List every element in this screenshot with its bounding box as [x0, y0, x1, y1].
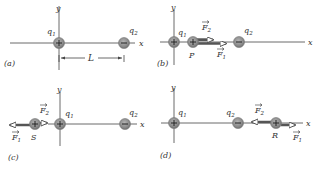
charge-label-q2: q2: [129, 108, 138, 118]
charge-label-q1: q1: [178, 28, 187, 38]
charge-label-p: P: [188, 51, 195, 60]
charge-label-q2: q2: [244, 26, 253, 36]
panel-label-b: (b): [157, 59, 168, 68]
y-axis-label: y: [55, 4, 61, 13]
force-vector-f2: [197, 39, 213, 42]
panel-b: y x F2 F1 q1 P q2 (b): [157, 3, 313, 68]
charge-q2-negative: [233, 118, 244, 129]
panel-label-a: (a): [4, 59, 15, 68]
x-axis-label: x: [308, 38, 313, 47]
charge-label-q2: q2: [226, 108, 235, 118]
panel-a: y x q1 q2 L (a): [4, 4, 144, 70]
y-axis-label: y: [170, 83, 176, 92]
charge-q1-positive: [54, 38, 65, 49]
charge-q2-negative: [234, 37, 245, 48]
charge-q1-positive: [169, 118, 180, 129]
charge-p-positive: [188, 37, 199, 48]
x-axis-label: x: [139, 39, 144, 48]
charge-q2-negative: [119, 38, 130, 49]
charge-label-r: R: [271, 131, 278, 140]
x-axis-label: x: [140, 120, 145, 129]
dimension-label-L: L: [87, 53, 94, 63]
force-label-f2: F2: [254, 106, 265, 116]
y-axis-label: y: [170, 3, 176, 12]
panel-d: y x F2 F1 q1 q2 R (d): [160, 83, 311, 160]
charge-label-q1: q1: [47, 27, 56, 37]
charge-label-q1: q1: [178, 108, 187, 118]
force-label-f1: F1: [292, 133, 302, 143]
panel-c: y x F2 F1 S q1 q2 (c): [8, 85, 145, 162]
panel-label-c: (c): [8, 153, 19, 162]
force-label-f1: F1: [11, 133, 21, 143]
charge-q1-positive: [169, 37, 180, 48]
charge-s-positive: [30, 119, 41, 130]
charge-label-q2: q2: [129, 26, 138, 36]
charge-label-s: S: [31, 133, 37, 142]
charge-q2-negative: [120, 119, 131, 130]
force-label-f2: F2: [201, 23, 212, 33]
dimension-L: L: [59, 53, 124, 63]
force-label-f1: F1: [216, 50, 226, 60]
charge-label-q1: q1: [65, 109, 74, 119]
charge-r-positive: [271, 118, 282, 129]
charge-q1-positive: [55, 119, 66, 130]
y-axis-label: y: [56, 85, 62, 94]
force-label-f2: F2: [39, 106, 50, 116]
coulomb-force-diagram: y x q1 q2 L (a) y x: [0, 0, 319, 172]
x-axis-label: x: [306, 119, 311, 128]
panel-label-d: (d): [160, 151, 171, 160]
